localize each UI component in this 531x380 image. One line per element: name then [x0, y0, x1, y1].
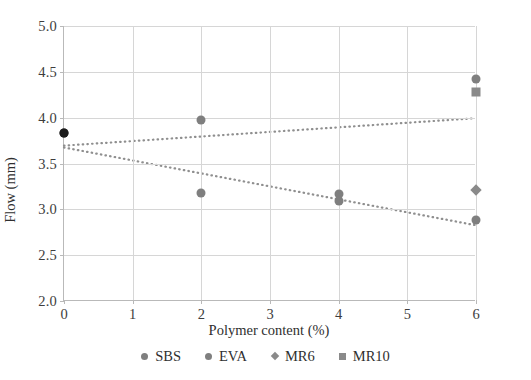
y-axis-tick-label: 5.0 — [38, 18, 57, 35]
legend-circle-icon — [141, 352, 150, 361]
y-axis-tick-label: 3.0 — [38, 201, 57, 218]
gridline-vertical — [339, 26, 340, 300]
x-axis-tick-label: 5 — [404, 306, 411, 323]
gridline-vertical — [201, 26, 202, 300]
chart-legend: SBSEVAMR6MR10 — [0, 348, 531, 365]
x-axis-tick-label: 6 — [472, 306, 479, 323]
data-point-eva — [60, 129, 69, 138]
x-axis-tick-label: 4 — [335, 306, 342, 323]
legend-diamond-icon — [271, 352, 280, 361]
y-axis-tick-label: 2.5 — [38, 247, 57, 264]
gridline-vertical — [476, 26, 477, 300]
x-axis-tick-mark — [476, 300, 477, 304]
legend-square-icon — [339, 352, 348, 361]
gridline-vertical — [270, 26, 271, 300]
y-axis-tick-mark — [60, 164, 64, 165]
x-axis-tick-mark — [64, 300, 65, 304]
gridline-vertical — [407, 26, 408, 300]
legend-label: EVA — [219, 348, 247, 365]
legend-label: SBS — [155, 348, 181, 365]
data-point-eva — [197, 188, 206, 197]
legend-item-sbs[interactable]: SBS — [141, 348, 181, 365]
y-axis-tick-mark — [60, 118, 64, 119]
y-axis-tick-mark — [60, 209, 64, 210]
data-point-sbs — [197, 116, 206, 125]
x-axis-title: Polymer content (%) — [63, 322, 475, 339]
legend-label: MR6 — [285, 348, 315, 365]
y-axis-tick-label: 2.0 — [38, 293, 57, 310]
x-axis-tick-label: 3 — [266, 306, 273, 323]
x-axis-tick-label: 0 — [60, 306, 67, 323]
data-point-eva — [334, 197, 343, 206]
x-axis-tick-label: 1 — [129, 306, 136, 323]
legend-label: MR10 — [353, 348, 390, 365]
legend-item-mr6[interactable]: MR6 — [271, 348, 315, 365]
data-point-sbs — [472, 75, 481, 84]
y-axis-title: Flow (mm) — [2, 157, 19, 223]
legend-circle-icon — [205, 352, 214, 361]
data-point-mr10 — [472, 88, 481, 97]
x-axis-tick-mark — [201, 300, 202, 304]
y-axis-tick-mark — [60, 26, 64, 27]
flow-vs-polymer-content-chart: Flow (mm) 2.02.53.03.54.04.55.00123456 P… — [0, 0, 531, 380]
x-axis-tick-mark — [133, 300, 134, 304]
y-axis-tick-label: 3.5 — [38, 155, 57, 172]
x-axis-tick-mark — [407, 300, 408, 304]
data-point-eva — [472, 216, 481, 225]
y-axis-tick-label: 4.5 — [38, 63, 57, 80]
legend-item-mr10[interactable]: MR10 — [339, 348, 390, 365]
gridline-vertical — [133, 26, 134, 300]
plot-area: 2.02.53.03.54.04.55.00123456 — [63, 26, 475, 301]
y-axis-tick-mark — [60, 255, 64, 256]
x-axis-tick-mark — [270, 300, 271, 304]
x-axis-tick-label: 2 — [198, 306, 205, 323]
x-axis-tick-mark — [339, 300, 340, 304]
legend-item-eva[interactable]: EVA — [205, 348, 247, 365]
y-axis-tick-label: 4.0 — [38, 109, 57, 126]
y-axis-tick-mark — [60, 72, 64, 73]
